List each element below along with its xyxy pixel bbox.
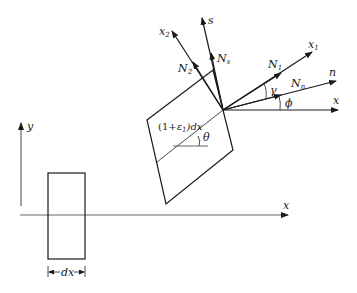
y-axis-label: y: [26, 120, 34, 133]
n-axis-label: n: [329, 66, 336, 79]
pivot-x-axis-label: x: [333, 94, 340, 107]
deformed-length-label: (1+ε1)dx: [158, 121, 203, 134]
Nn-force-arrow: [223, 95, 281, 110]
theta-arc: [198, 136, 200, 146]
gamma-arc: [264, 84, 266, 99]
Ns-force-label: Ns: [216, 52, 231, 66]
x1-axis-label: x1: [308, 38, 319, 52]
main-x-axis-label: x: [283, 199, 290, 212]
gamma-label: γ: [270, 84, 277, 97]
s-axis-label: s: [208, 14, 214, 27]
deformed-centerline: [157, 110, 223, 162]
element-rectangle: [48, 173, 85, 259]
N2-force-label: N2: [177, 62, 193, 76]
undeformed-element: dx: [48, 173, 85, 279]
Nn-force-label: Nn: [290, 77, 306, 91]
N1-force-label: N1: [267, 58, 282, 72]
x2-axis-label: x2: [159, 25, 170, 39]
theta-label: θ: [203, 131, 210, 144]
deformed-element: (1+ε1)dx θ: [147, 70, 233, 204]
beam-deformation-diagram: x y dx (1+ε1)dx θ x n Nn: [0, 0, 357, 293]
force-diagram: x n Nn x1 N1 γ ϕ s Ns x2: [159, 14, 340, 110]
deformed-parallelogram: [147, 70, 233, 204]
dx-label: dx: [61, 266, 75, 279]
phi-label: ϕ: [285, 97, 293, 110]
phi-arc: [279, 96, 280, 110]
reference-frame: x y: [20, 120, 290, 215]
